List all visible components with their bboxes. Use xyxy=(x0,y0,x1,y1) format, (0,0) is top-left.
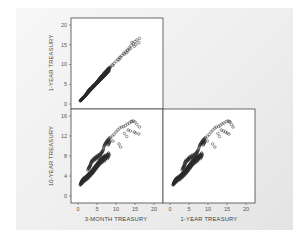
y-tick-label: 0 xyxy=(64,193,67,199)
y-tick-label: 20 xyxy=(61,22,67,28)
x-axis-label-right: 1-YEAR TREASURY xyxy=(181,216,238,222)
y-tick-label: 15 xyxy=(61,42,67,48)
panel-bottom-left-frame xyxy=(71,109,163,203)
scatterplot-matrix: 0510152004812160510152005101520 1-YEAR T… xyxy=(0,0,308,244)
x-axis-label-left: 3-MONTH TREASURY xyxy=(85,216,148,222)
x-tick-label: 20 xyxy=(243,206,249,212)
y-tick-label: 12 xyxy=(61,133,67,139)
x-tick-label: 10 xyxy=(205,206,211,212)
x-tick-label: 5 xyxy=(187,206,190,212)
y-tick-label: 0 xyxy=(64,101,67,107)
x-tick-label: 0 xyxy=(76,206,79,212)
y-tick-label: 4 xyxy=(64,173,67,179)
y-tick-label: 10 xyxy=(61,61,67,67)
x-tick-label: 20 xyxy=(151,206,157,212)
y-tick-label: 8 xyxy=(64,153,67,159)
x-tick-label: 15 xyxy=(224,206,230,212)
y-tick-label: 5 xyxy=(64,81,67,87)
panel-bottom-right-frame xyxy=(163,109,255,203)
x-tick-label: 10 xyxy=(113,206,119,212)
x-tick-label: 15 xyxy=(132,206,138,212)
y-axis-label-bottom: 10-YEAR TREASURY xyxy=(48,126,54,186)
y-axis-label-top: 1-YEAR TREASURY xyxy=(48,35,54,92)
x-tick-label: 0 xyxy=(168,206,171,212)
x-tick-label: 5 xyxy=(95,206,98,212)
y-tick-label: 16 xyxy=(61,113,67,119)
